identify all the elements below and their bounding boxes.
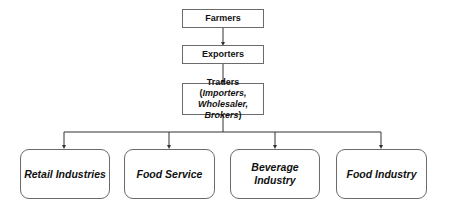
- node-exporters-label: Exporters: [202, 49, 244, 60]
- node-farmers-label: Farmers: [205, 13, 241, 24]
- node-retail-label: Retail Industries: [24, 168, 106, 181]
- traders-wholesaler: Wholesaler,: [198, 99, 248, 109]
- node-beverage-label: Beverage Industry: [251, 161, 298, 187]
- node-retail-industries: Retail Industries: [20, 149, 110, 199]
- node-food-industry-label: Food Industry: [347, 168, 417, 181]
- beverage-line1: Beverage: [251, 161, 298, 173]
- traders-importers: Importers,: [202, 88, 246, 98]
- node-food-industry: Food Industry: [336, 149, 427, 199]
- traders-suffix: ): [239, 110, 242, 120]
- node-traders: Traders (Importers, Wholesaler, Brokers): [182, 83, 264, 115]
- node-traders-label: Traders (Importers, Wholesaler, Brokers): [183, 77, 263, 121]
- node-exporters: Exporters: [182, 45, 264, 64]
- traders-brokers: Brokers: [204, 110, 238, 120]
- node-food-service: Food Service: [124, 149, 215, 199]
- node-beverage-industry: Beverage Industry: [230, 149, 320, 199]
- node-farmers: Farmers: [182, 9, 264, 28]
- node-food-service-label: Food Service: [137, 168, 203, 181]
- beverage-line2: Industry: [254, 174, 295, 186]
